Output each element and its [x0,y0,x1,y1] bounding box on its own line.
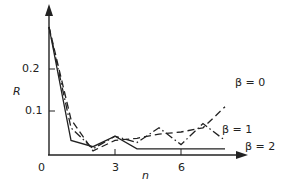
series-line-beta-1 [49,27,225,149]
legend-beta-0: β = 0 [235,77,265,88]
line-chart [0,0,285,185]
series-line-beta-2 [49,27,225,149]
y-axis-label: R [13,86,21,97]
x-tick-label-6: 6 [178,162,185,173]
x-tick-label-3: 3 [112,162,119,173]
ticks [49,69,181,155]
legend-beta-2: β = 2 [245,141,275,152]
y-axis-arrow-icon [45,4,53,16]
y-tick-label-0.2: 0.2 [22,63,40,74]
y-tick-label-0.1: 0.1 [25,105,43,116]
series-layer [49,27,225,151]
x-axis-label: n [142,170,149,181]
legend-beta-1: β = 1 [222,124,252,135]
x-tick-label-0: 0 [38,162,45,173]
